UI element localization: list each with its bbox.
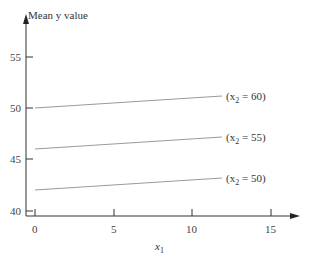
y-tick-label: 50 [10, 102, 22, 114]
x-tick-label: 15 [265, 223, 277, 235]
chart: Mean y value 55 50 45 40 0 5 10 15 x1 (x… [0, 0, 323, 257]
y-tick-label: 40 [10, 205, 22, 217]
x-tick-label: 5 [111, 223, 117, 235]
y-axis-title: Mean y value [28, 9, 88, 21]
x-axis-arrow-icon [290, 213, 300, 219]
series-label-x2-60: (x2 = 60) [226, 90, 266, 105]
series-line-x2-55 [35, 137, 222, 149]
y-tick-label: 45 [10, 153, 22, 165]
series-label-x2-50: (x2 = 50) [226, 172, 266, 187]
x-ticks: 0 5 10 15 [32, 209, 277, 235]
x-tick-label: 10 [186, 223, 198, 235]
y-tick-label: 55 [10, 51, 22, 63]
x-tick-label: 0 [32, 223, 38, 235]
x-axis-title: x1 [154, 240, 164, 255]
series-line-x2-60 [35, 96, 222, 108]
y-ticks: 55 50 45 40 [10, 51, 33, 217]
series-label-x2-55: (x2 = 55) [226, 131, 266, 146]
series-line-x2-50 [35, 178, 222, 190]
